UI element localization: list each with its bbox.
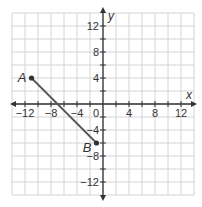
x-tick-label: 8: [152, 107, 158, 119]
point-B: [94, 140, 99, 145]
origin-label: 0: [93, 107, 99, 119]
x-tick-label: 4: [126, 107, 132, 119]
y-tick-label: 12: [87, 20, 99, 32]
y-tick-label: 4: [93, 72, 99, 84]
x-tick-label: −4: [71, 107, 84, 119]
y-axis-label: y: [107, 9, 115, 23]
point-A: [29, 75, 34, 80]
point-label-B: B: [83, 140, 92, 155]
x-axis-label: x: [185, 88, 193, 102]
coordinate-plane: −12−8−448121284−4−8−12 AB x y 0: [0, 0, 202, 207]
y-axis-arrow-down-icon: [100, 195, 106, 201]
y-tick-label: 8: [93, 46, 99, 58]
x-tick-label: −8: [45, 107, 58, 119]
x-tick-label: 12: [175, 107, 187, 119]
x-tick-label: −12: [16, 107, 35, 119]
y-tick-label: −12: [80, 176, 99, 188]
point-label-A: A: [17, 70, 27, 85]
y-axis-arrow-up-icon: [100, 7, 106, 13]
